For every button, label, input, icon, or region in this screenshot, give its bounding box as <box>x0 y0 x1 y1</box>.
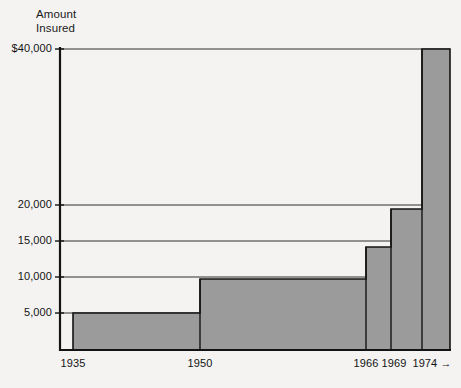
xtick-label-1935: 1935 <box>51 357 95 369</box>
step-area-path <box>73 49 450 350</box>
ytick-label-5000: 5,000 <box>0 306 52 318</box>
chart-step-series <box>73 49 450 350</box>
xtick-label-1950: 1950 <box>178 357 222 369</box>
chart-plot-area <box>0 0 461 388</box>
ytick-label-15000: 15,000 <box>0 234 52 246</box>
ytick-label-20000: 20,000 <box>0 198 52 210</box>
xtick-label-1974: 1974 → <box>404 357 460 369</box>
ytick-label-10000: 10,000 <box>0 270 52 282</box>
ytick-label-40000: $40,000 <box>0 42 52 54</box>
chart-figure: Amount Insured <box>0 0 461 388</box>
